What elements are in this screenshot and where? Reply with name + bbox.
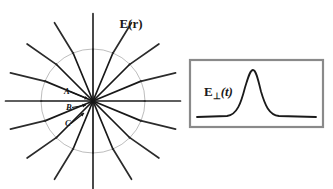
pulse-label-argument: (t) (221, 84, 233, 99)
transverse-pulse-inset: E⊥(t) (190, 60, 323, 127)
annotation-b-label: B (65, 102, 72, 112)
pulse-label-main: E (204, 84, 213, 99)
annotation-c-label: C (65, 118, 71, 128)
pulse-label-subscript: ⊥ (213, 91, 221, 101)
field-label-Er: E(r) (119, 16, 142, 31)
figure-root: ABC E(r) E⊥(t) (0, 0, 333, 189)
annotation-a-label: A (63, 86, 70, 96)
